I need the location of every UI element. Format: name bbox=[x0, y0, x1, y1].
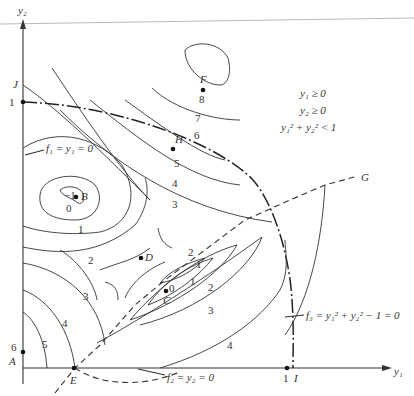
page-edge-line bbox=[0, 18, 414, 24]
y1-axis-label: y₁ bbox=[393, 365, 403, 377]
label-F-7: 7 bbox=[195, 112, 201, 124]
contour-D-upper-right bbox=[158, 228, 172, 248]
label-F-8: 8 bbox=[199, 93, 205, 105]
contour-H-4 bbox=[90, 100, 240, 185]
point-A-label: A bbox=[8, 355, 16, 367]
label-C-3: 3 bbox=[208, 304, 214, 316]
point-H-label: H bbox=[174, 133, 184, 145]
contour-left-4 bbox=[23, 290, 75, 368]
dashed-line-E-to-G bbox=[55, 176, 358, 393]
point-E-label: E bbox=[69, 374, 77, 386]
f3-leader bbox=[285, 315, 304, 317]
label-B-1: 1 bbox=[78, 223, 84, 235]
y-tick-1: 1 bbox=[9, 96, 15, 108]
contour-F-8 bbox=[185, 44, 230, 85]
label-H-4: 4 bbox=[172, 177, 178, 189]
label-H-3: 3 bbox=[172, 198, 178, 210]
point-B-label: B bbox=[81, 190, 88, 202]
point-A bbox=[21, 350, 26, 355]
point-C bbox=[164, 289, 169, 294]
point-F bbox=[201, 88, 206, 93]
contour-H-line2 bbox=[52, 68, 150, 200]
point-F-label: F bbox=[199, 73, 207, 85]
contour-D-lower-left bbox=[105, 282, 118, 300]
label-H-5: 5 bbox=[174, 157, 180, 169]
f3-label: f₃ = y₁² + y₂² − 1 = 0 bbox=[306, 309, 400, 321]
label-C-2b: 2 bbox=[208, 281, 214, 293]
point-J-tick bbox=[21, 100, 26, 105]
contour-right-4 bbox=[160, 240, 286, 368]
label-left-4: 4 bbox=[62, 317, 68, 329]
label-left-2: 2 bbox=[88, 254, 94, 266]
constraint-unit-circle: y₁² + y₂² < 1 bbox=[280, 121, 336, 133]
x-tick-1: 1 bbox=[283, 372, 289, 384]
point-H bbox=[171, 147, 176, 152]
point-G-label: G bbox=[361, 171, 369, 183]
f1-leader bbox=[25, 150, 44, 155]
label-A-6: 6 bbox=[11, 341, 17, 353]
label-right-4: 4 bbox=[227, 339, 233, 351]
contour-left-3 bbox=[23, 263, 105, 345]
label-left-3: 3 bbox=[83, 290, 89, 302]
contour-H-5 bbox=[125, 100, 225, 160]
point-C-label: C bbox=[163, 294, 171, 306]
contour-D-lower-right bbox=[125, 262, 165, 298]
label-F-6: 6 bbox=[194, 129, 200, 141]
y1-axis-arrow bbox=[382, 365, 392, 371]
label-left-5: 5 bbox=[42, 338, 48, 350]
point-D bbox=[139, 256, 144, 261]
constraint-y2-nonneg: y₂ ≥ 0 bbox=[299, 104, 326, 116]
f2-label: f₂ = y₂ = 0 bbox=[167, 371, 214, 383]
contour-C-3 bbox=[97, 237, 262, 343]
label-C-0: 0 bbox=[169, 282, 175, 294]
point-I-label: I bbox=[293, 372, 299, 384]
f1-label: f₁ = y₁ = 0 bbox=[46, 142, 93, 154]
point-I bbox=[285, 366, 290, 371]
constraint-y1-nonneg: y₁ ≥ 0 bbox=[299, 87, 326, 99]
point-J-label: J bbox=[13, 78, 19, 90]
point-D-label: D bbox=[144, 251, 153, 263]
label-C-1a: 1 bbox=[196, 258, 202, 270]
label-B-0: 0 bbox=[66, 202, 72, 214]
label-B-minus1: −1 bbox=[64, 189, 76, 201]
label-C-2a: 2 bbox=[188, 246, 194, 258]
y2-axis-label: y₂ bbox=[17, 4, 27, 16]
label-C-1b: 1 bbox=[190, 275, 196, 287]
point-E bbox=[72, 366, 77, 371]
contour-diagram: y₂ y₁ 1 1 A B C D E F G H bbox=[0, 0, 414, 396]
f2-leader bbox=[138, 369, 165, 375]
